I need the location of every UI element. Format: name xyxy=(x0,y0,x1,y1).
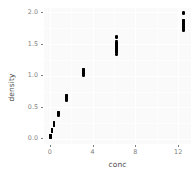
plot-panel xyxy=(44,8,191,144)
data-point xyxy=(115,40,118,43)
gridline-horizontal-minor xyxy=(44,123,191,124)
data-point xyxy=(182,19,185,22)
x-axis-tick-label-wrap: 12 xyxy=(168,148,188,156)
x-axis-tick-mark xyxy=(178,145,179,147)
x-axis-tick-label-wrap: 8 xyxy=(125,148,145,156)
y-axis-tick-label-wrap: 0.5 xyxy=(22,104,38,111)
gridline-horizontal-minor xyxy=(44,92,191,93)
y-axis-title: density xyxy=(6,0,17,175)
x-axis-tick-label-wrap: 4 xyxy=(83,148,103,156)
x-axis-tick-label: 12 xyxy=(168,148,188,156)
x-axis-tick-mark xyxy=(135,145,136,147)
y-axis-tick-mark xyxy=(41,12,43,13)
y-axis-tick-label: 0.5 xyxy=(22,104,38,111)
data-point xyxy=(57,112,60,115)
y-axis-tick-label: 0.0 xyxy=(22,135,38,142)
gridline-horizontal-major xyxy=(44,12,191,13)
y-axis-tick-label-wrap: 0.0 xyxy=(22,135,38,142)
x-axis-tick-label: 8 xyxy=(125,148,145,156)
x-axis-title: conc xyxy=(44,160,191,169)
y-axis-tick-mark xyxy=(41,75,43,76)
gridline-horizontal-major xyxy=(44,107,191,108)
y-axis-tick-mark xyxy=(41,107,43,108)
data-point xyxy=(182,26,185,29)
gridline-horizontal-major xyxy=(44,76,191,77)
gridline-horizontal-minor xyxy=(44,28,191,29)
x-axis-tick-mark xyxy=(93,145,94,147)
scatter-plot-figure: 0.00.51.01.52.004812 density conc xyxy=(0,0,196,175)
data-point xyxy=(182,11,185,14)
gridline-vertical-major xyxy=(93,8,94,144)
gridline-horizontal-minor xyxy=(44,60,191,61)
y-axis-tick-label: 1.0 xyxy=(22,72,38,79)
data-point xyxy=(115,48,118,51)
y-axis-tick-label-wrap: 1.5 xyxy=(22,41,38,48)
data-point xyxy=(82,72,85,75)
gridline-vertical-major xyxy=(178,8,179,144)
y-axis-tick-label: 2.0 xyxy=(22,9,38,16)
x-axis-tick-label-wrap: 0 xyxy=(40,148,60,156)
x-axis-tick-mark xyxy=(50,145,51,147)
y-axis-tick-label: 1.5 xyxy=(22,41,38,48)
y-axis-tick-mark xyxy=(41,44,43,45)
data-point xyxy=(49,134,52,137)
y-axis-tick-label-wrap: 1.0 xyxy=(22,72,38,79)
y-axis-tick-label-wrap: 2.0 xyxy=(22,9,38,16)
gridline-vertical-major xyxy=(135,8,136,144)
x-axis-tick-label: 4 xyxy=(83,148,103,156)
data-point xyxy=(65,97,68,100)
gridline-vertical-major xyxy=(50,8,51,144)
y-axis-tick-mark xyxy=(41,138,43,139)
data-point xyxy=(51,128,54,131)
x-axis-tick-label: 0 xyxy=(40,148,60,156)
gridline-horizontal-major xyxy=(44,139,191,140)
